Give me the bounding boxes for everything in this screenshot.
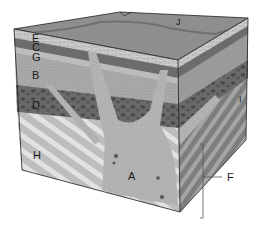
label-G: G — [32, 52, 41, 63]
xenolith — [114, 154, 118, 158]
label-A: A — [128, 171, 135, 182]
label-J: J — [176, 18, 181, 27]
xenolith — [156, 176, 160, 180]
xenolith — [160, 195, 164, 199]
label-B: B — [32, 70, 39, 81]
label-I: I — [239, 95, 242, 104]
label-F: F — [227, 172, 234, 183]
label-H: H — [33, 150, 41, 161]
label-D: D — [32, 100, 40, 111]
xenolith — [113, 162, 116, 165]
block-diagram — [0, 0, 263, 238]
